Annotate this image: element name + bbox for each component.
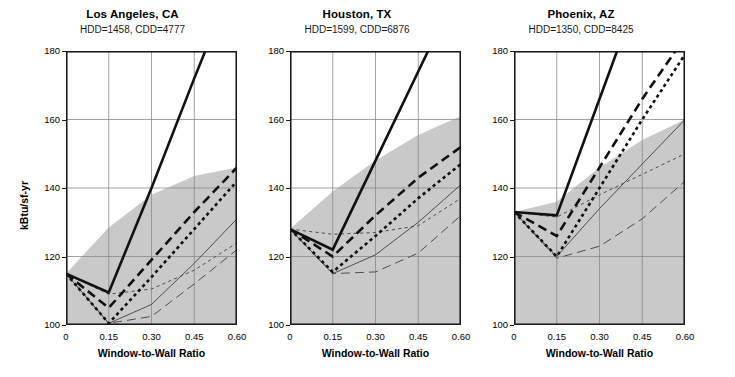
- y-tick-mark: [62, 120, 66, 121]
- plot-phoenix-az: [514, 51, 685, 325]
- x-tick-label: 0: [270, 331, 310, 342]
- x-tick-label: 0.45: [174, 331, 214, 342]
- y-tick-mark: [510, 257, 514, 258]
- y-tick-mark: [510, 120, 514, 121]
- x-tick-label: 0.30: [132, 331, 172, 342]
- x-axis-label: Window-to-Wall Ratio: [66, 347, 237, 359]
- x-tick-label: 0.15: [537, 331, 577, 342]
- y-tick-mark: [510, 188, 514, 189]
- x-axis-label: Window-to-Wall Ratio: [290, 347, 461, 359]
- plot-houston-tx: [290, 51, 461, 325]
- y-tick-label: 160: [480, 114, 508, 125]
- y-tick-mark: [510, 325, 514, 326]
- x-tick-label: 0.30: [580, 331, 620, 342]
- plot-los-angeles-ca: [66, 51, 237, 325]
- y-tick-label: 140: [480, 182, 508, 193]
- y-tick-label: 140: [32, 182, 60, 193]
- panel-title: Los Angeles, CA: [20, 8, 245, 20]
- x-tick-label: 0.15: [89, 331, 129, 342]
- x-tick-label: 0.45: [622, 331, 662, 342]
- y-tick-mark: [510, 51, 514, 52]
- y-tick-label: 120: [32, 251, 60, 262]
- panel-subtitle-degree-days: HDD=1350, CDD=8425: [469, 24, 693, 35]
- x-tick-label: 0: [46, 331, 86, 342]
- x-tick-label: 0.60: [217, 331, 257, 342]
- y-tick-mark: [286, 51, 290, 52]
- y-tick-mark: [62, 325, 66, 326]
- y-tick-label: 160: [256, 114, 284, 125]
- y-tick-mark: [286, 325, 290, 326]
- y-tick-label: 140: [256, 182, 284, 193]
- y-tick-label: 180: [256, 45, 284, 56]
- y-tick-label: 160: [32, 114, 60, 125]
- panel-subtitle-degree-days: HDD=1599, CDD=6876: [245, 24, 469, 35]
- y-tick-mark: [286, 120, 290, 121]
- plot-canvas: [66, 51, 237, 325]
- y-tick-mark: [62, 51, 66, 52]
- y-tick-label: 180: [32, 45, 60, 56]
- panel-title: Houston, TX: [245, 8, 469, 20]
- x-axis-label: Window-to-Wall Ratio: [514, 347, 685, 359]
- figure-three-panel-energy-chart: kBtu/sf-yr Los Angeles, CA HDD=1458, CDD…: [0, 0, 735, 377]
- y-tick-label: 100: [480, 319, 508, 330]
- panel-title: Phoenix, AZ: [469, 8, 693, 20]
- x-tick-label: 0.60: [441, 331, 481, 342]
- x-tick-label: 0: [494, 331, 534, 342]
- y-tick-label: 100: [32, 319, 60, 330]
- plot-canvas: [290, 51, 461, 325]
- y-tick-label: 100: [256, 319, 284, 330]
- y-tick-mark: [286, 257, 290, 258]
- y-tick-label: 120: [256, 251, 284, 262]
- y-tick-mark: [62, 257, 66, 258]
- panel-subtitle-degree-days: HDD=1458, CDD=4777: [20, 24, 245, 35]
- x-tick-label: 0.15: [313, 331, 353, 342]
- y-tick-mark: [286, 188, 290, 189]
- x-tick-label: 0.30: [356, 331, 396, 342]
- x-tick-label: 0.60: [665, 331, 705, 342]
- y-tick-mark: [62, 188, 66, 189]
- plot-canvas: [514, 51, 685, 325]
- y-tick-label: 180: [480, 45, 508, 56]
- y-tick-label: 120: [480, 251, 508, 262]
- x-tick-label: 0.45: [398, 331, 438, 342]
